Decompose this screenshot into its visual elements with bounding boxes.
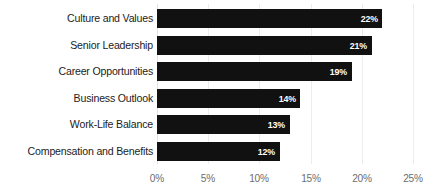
- x-tick-label: 25%: [395, 172, 432, 185]
- bar-track: 22%: [157, 9, 382, 28]
- bar-value-label: 12%: [258, 146, 280, 157]
- category-label: Business Outlook: [12, 92, 153, 105]
- x-tick-label: 15%: [292, 172, 329, 185]
- x-tick-label: 5%: [190, 172, 227, 185]
- bar-track: 12%: [157, 142, 280, 161]
- bar-row: Work-Life Balance13%: [0, 115, 441, 134]
- bar[interactable]: 12%: [157, 142, 280, 161]
- x-tick-label: 0%: [139, 172, 176, 185]
- bar-rows: Culture and Values22%Senior Leadership21…: [0, 0, 441, 166]
- bar[interactable]: 21%: [157, 36, 372, 55]
- bar-track: 14%: [157, 89, 300, 108]
- bar-row: Career Opportunities19%: [0, 62, 441, 81]
- x-tick-label: 20%: [343, 172, 380, 185]
- category-label: Compensation and Benefits: [12, 145, 153, 158]
- bar-row: Business Outlook14%: [0, 89, 441, 108]
- bar-row: Compensation and Benefits12%: [0, 142, 441, 161]
- bar-value-label: 21%: [350, 40, 372, 51]
- x-tick-label: 10%: [241, 172, 278, 185]
- category-label: Work-Life Balance: [12, 118, 153, 131]
- bar-value-label: 13%: [268, 119, 290, 130]
- bar-value-label: 22%: [360, 13, 382, 24]
- bar-row: Senior Leadership21%: [0, 36, 441, 55]
- x-axis: 0%5%10%15%20%25%: [0, 166, 441, 196]
- category-label: Senior Leadership: [12, 39, 153, 52]
- category-label: Career Opportunities: [12, 65, 153, 78]
- bar-value-label: 19%: [329, 66, 351, 77]
- bar[interactable]: 14%: [157, 89, 300, 108]
- bar-row: Culture and Values22%: [0, 9, 441, 28]
- bar-value-label: 14%: [278, 93, 300, 104]
- bar[interactable]: 22%: [157, 9, 382, 28]
- bar-chart: Culture and Values22%Senior Leadership21…: [0, 0, 441, 196]
- category-label: Culture and Values: [12, 12, 153, 25]
- bar-track: 21%: [157, 36, 372, 55]
- bar-track: 13%: [157, 115, 290, 134]
- bar-track: 19%: [157, 62, 352, 81]
- bar[interactable]: 13%: [157, 115, 290, 134]
- bar[interactable]: 19%: [157, 62, 352, 81]
